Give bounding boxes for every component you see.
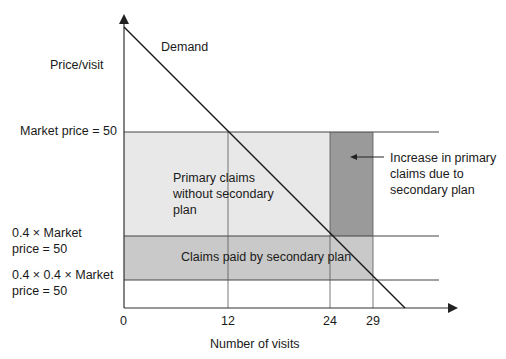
x-tick-24: 24 bbox=[323, 314, 337, 329]
market-price-label: Market price = 50 bbox=[20, 124, 117, 139]
primary-region-label: Primary claims without secondary plan bbox=[173, 170, 293, 218]
increase-annotation: Increase in primary claims due to second… bbox=[390, 150, 502, 198]
y-axis-label: Price/visit bbox=[50, 58, 103, 73]
y-axis-arrow-icon bbox=[119, 14, 129, 24]
price-04-label-1: 0.4 × Market bbox=[12, 226, 82, 241]
demand-label: Demand bbox=[161, 40, 208, 55]
secondary-region-label: Claims paid by secondary plan bbox=[181, 250, 351, 265]
price-04-label-2: price = 50 bbox=[12, 242, 67, 257]
x-tick-29: 29 bbox=[366, 314, 380, 329]
increase-claims-region bbox=[330, 132, 373, 236]
x-tick-0: 0 bbox=[120, 314, 127, 329]
x-tick-12: 12 bbox=[221, 314, 235, 329]
price-016-label-2: price = 50 bbox=[12, 284, 67, 299]
price-016-label-1: 0.4 × 0.4 × Market bbox=[12, 268, 113, 283]
x-axis-label: Number of visits bbox=[210, 337, 300, 352]
x-axis-arrow-icon bbox=[448, 303, 458, 313]
